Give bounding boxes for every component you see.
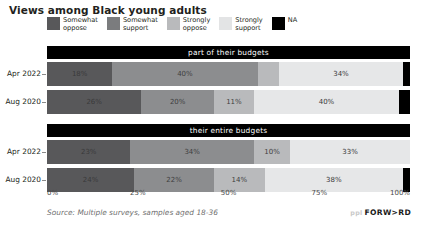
legend-label: Strongly oppose [183,17,210,32]
legend-swatch [272,17,285,30]
bar-segment[interactable] [403,62,410,86]
legend-swatch [219,17,232,30]
bar-segment-label: 14% [232,176,248,184]
bar-segment[interactable]: 18% [47,62,112,86]
bar-segment[interactable]: 33% [290,140,410,164]
bar-segment[interactable]: 23% [47,140,130,164]
bar-segment[interactable]: 11% [214,90,254,114]
axis-tick-label: 50% [221,189,237,197]
legend-item[interactable]: Somewhat support [107,17,158,32]
bar-segment[interactable]: 34% [279,62,402,86]
bar-segment-label: 20% [170,98,186,106]
legend-item[interactable]: NA [272,17,297,30]
page-title: Views among Black young adults [9,4,207,16]
bar-segment[interactable]: 20% [141,90,214,114]
brand-name: FORW>RD [365,208,411,217]
panel-title: part of their budgets [47,46,410,59]
row-tick-mark [42,152,46,153]
legend-item[interactable]: Strongly support [219,17,262,32]
bar-segment-label: 18% [72,70,88,78]
row-tick-mark [42,74,46,75]
bar-segment-label: 40% [319,98,335,106]
brand-prefix: ppl [350,209,362,217]
bar-segment[interactable] [258,62,280,86]
axis-tick-label: 25% [130,189,146,197]
chart-panel: part of their budgetsApr 202218%40%34%Au… [47,46,410,114]
x-axis: 0%25%50%75%100% [47,189,410,201]
axis-tick-label: 75% [311,189,327,197]
bar-row-label: Aug 2020 [5,168,41,192]
bar-segment-label: 34% [333,70,349,78]
bar-segment[interactable]: 40% [254,90,399,114]
legend-swatch [167,17,180,30]
legend-label: NA [288,17,297,25]
bar-segment-label: 24% [83,176,99,184]
legend-item[interactable]: Strongly oppose [167,17,210,32]
bar-row: Apr 202223%34%10%33% [47,140,410,164]
brand-logo: ppl FORW>RD [350,208,411,217]
legend-label: Strongly support [235,17,262,32]
bar-segment[interactable] [399,90,410,114]
bar-segment[interactable]: 26% [47,90,141,114]
chart-legend: Somewhat opposeSomewhat supportStrongly … [47,17,297,37]
bar-segment[interactable]: 10% [254,140,290,164]
legend-label: Somewhat oppose [63,17,98,32]
axis-tick-label: 100% [390,189,410,197]
legend-swatch [47,17,60,30]
chart-panel: their entire budgetsApr 202223%34%10%33%… [47,124,410,192]
bar-segment-label: 23% [81,148,97,156]
panel-title: their entire budgets [47,124,410,137]
bar-segment-label: 22% [166,176,182,184]
bar-segment-label: 10% [264,148,280,156]
axis-tick-label: 0% [47,189,58,197]
bar-row-label: Apr 2022 [7,140,41,164]
bar-row-label: Apr 2022 [7,62,41,86]
bar-segment-label: 33% [342,148,358,156]
bar-row: Aug 202026%20%11%40% [47,90,410,114]
bar-segment-label: 40% [177,70,193,78]
bar-row-label: Aug 2020 [5,90,41,114]
chart-container: Views among Black young adults Somewhat … [0,0,425,228]
legend-label: Somewhat support [123,17,158,32]
source-note: Source: Multiple surveys, samples aged 1… [47,208,218,217]
bar-segment-label: 26% [86,98,102,106]
bar-segment-label: 38% [326,176,342,184]
legend-item[interactable]: Somewhat oppose [47,17,98,32]
row-tick-mark [42,102,46,103]
bar-segment-label: 11% [226,98,242,106]
bar-segment[interactable]: 34% [130,140,253,164]
row-tick-mark [42,180,46,181]
bar-segment[interactable]: 40% [112,62,257,86]
bar-row: Apr 202218%40%34% [47,62,410,86]
bar-segment-label: 34% [184,148,200,156]
legend-swatch [107,17,120,30]
